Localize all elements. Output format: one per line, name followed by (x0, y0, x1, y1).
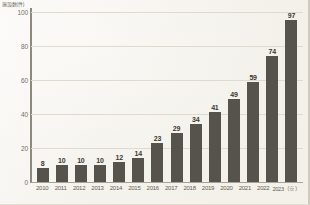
bar-value-label: 10 (96, 157, 103, 164)
bar (56, 165, 68, 182)
bar-group: 14 (129, 12, 148, 182)
bar-group: 74 (263, 12, 282, 182)
bar (171, 133, 183, 182)
bar-value-label: 59 (249, 74, 256, 81)
x-tick-label: 2022 (254, 185, 272, 193)
x-tick-label: 2014 (107, 185, 125, 193)
bar-group: 12 (110, 12, 129, 182)
x-tick-label: 2018 (180, 185, 198, 193)
x-tick-label: 2013 (88, 185, 106, 193)
bar-value-label: 29 (173, 125, 180, 132)
bar-value-label: 41 (211, 104, 218, 111)
bar-chart: 施設数(件) 100806040200 81010101214232934414… (0, 0, 310, 205)
y-tick-label: 20 (4, 145, 28, 152)
y-tick-label: 100 (4, 9, 28, 16)
bar (209, 112, 221, 182)
bar (132, 158, 144, 182)
x-tick-label: 2019 (199, 185, 217, 193)
x-tick-label: 2017 (162, 185, 180, 193)
bar-value-label: 8 (41, 160, 45, 167)
x-tick-label: 2011 (51, 185, 69, 193)
bar-group: 34 (186, 12, 205, 182)
bar (94, 165, 106, 182)
x-tick-label: 2015 (125, 185, 143, 193)
bar (266, 56, 278, 182)
bar-group: 10 (90, 12, 109, 182)
y-tick-label: 0 (4, 179, 28, 186)
y-tick-label: 40 (4, 111, 28, 118)
bar-value-label: 14 (135, 150, 142, 157)
bar-group: 23 (148, 12, 167, 182)
bar (228, 99, 240, 182)
y-tick-label: 60 (4, 77, 28, 84)
bar-value-label: 23 (154, 135, 161, 142)
x-axis-tick-labels: 2010201120122013201420152016201720182019… (31, 185, 303, 193)
bar-value-label: 10 (58, 157, 65, 164)
y-tick-label: 80 (4, 43, 28, 50)
x-tick-label: 2023（※） (272, 185, 301, 193)
bar-group: 10 (71, 12, 90, 182)
bar-group: 10 (52, 12, 71, 182)
bar-group: 49 (224, 12, 243, 182)
x-tick-label: 2012 (70, 185, 88, 193)
bar-group: 8 (33, 12, 52, 182)
bar-series: 810101012142329344149597497 (31, 12, 303, 182)
bar-value-label: 10 (77, 157, 84, 164)
bar-value-label: 34 (192, 116, 199, 123)
bar-group: 29 (167, 12, 186, 182)
bar (37, 168, 49, 182)
plot-area: 810101012142329344149597497 (31, 12, 303, 182)
bar (190, 124, 202, 182)
x-tick-label: 2020 (217, 185, 235, 193)
bar-group: 59 (244, 12, 263, 182)
bar (113, 162, 125, 182)
y-axis-tick-labels: 100806040200 (0, 0, 28, 205)
bar-value-label: 74 (269, 48, 276, 55)
bar-group: 97 (282, 12, 301, 182)
bar-value-label: 49 (230, 91, 237, 98)
x-tick-label: 2021 (236, 185, 254, 193)
x-axis-line (31, 182, 303, 183)
x-tick-label: 2016 (144, 185, 162, 193)
bar (75, 165, 87, 182)
bar-group: 41 (205, 12, 224, 182)
bar (151, 143, 163, 182)
bar-value-label: 97 (288, 12, 295, 19)
bar-value-label: 12 (115, 154, 122, 161)
bar (247, 82, 259, 182)
bar (285, 20, 297, 182)
x-tick-label: 2010 (33, 185, 51, 193)
